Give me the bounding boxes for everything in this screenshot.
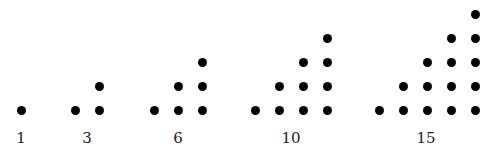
dot — [471, 58, 480, 67]
dot — [323, 34, 332, 43]
dot — [198, 58, 207, 67]
dot — [423, 106, 432, 115]
dot — [471, 10, 480, 19]
dot — [423, 58, 432, 67]
dot — [275, 106, 284, 115]
figure-label: 1 — [16, 129, 26, 147]
triangular-numbers-diagram: 1361015 — [0, 0, 491, 159]
dot — [174, 106, 183, 115]
dot — [150, 106, 159, 115]
dot — [471, 82, 480, 91]
dot — [275, 82, 284, 91]
dot — [447, 106, 456, 115]
dot — [447, 82, 456, 91]
dot — [299, 82, 308, 91]
dot — [198, 82, 207, 91]
dot — [323, 82, 332, 91]
dot — [323, 106, 332, 115]
figure-label: 10 — [281, 129, 300, 147]
dot — [399, 82, 408, 91]
dot — [95, 82, 104, 91]
dot — [375, 106, 384, 115]
dot — [399, 106, 408, 115]
dot — [299, 106, 308, 115]
dot — [299, 58, 308, 67]
dot — [251, 106, 260, 115]
dot — [471, 34, 480, 43]
dot — [471, 106, 480, 115]
figure-label: 15 — [416, 129, 435, 147]
dot — [17, 106, 26, 115]
dot — [447, 34, 456, 43]
dot — [323, 58, 332, 67]
figure-label: 3 — [82, 129, 92, 147]
dot — [71, 106, 80, 115]
dot — [95, 106, 104, 115]
figure-label: 6 — [173, 129, 183, 147]
dot — [423, 82, 432, 91]
dot — [198, 106, 207, 115]
dot — [174, 82, 183, 91]
dot — [447, 58, 456, 67]
